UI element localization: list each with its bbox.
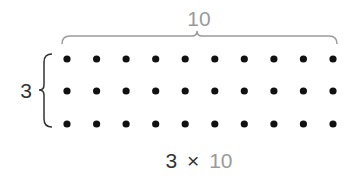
dot bbox=[152, 120, 159, 127]
times-icon: × bbox=[187, 149, 199, 172]
dot bbox=[182, 55, 189, 62]
dot bbox=[63, 120, 70, 127]
dot bbox=[93, 120, 100, 127]
array-diagram: 10 3 3 × 10 bbox=[0, 0, 364, 176]
dot bbox=[241, 87, 248, 94]
dot bbox=[211, 55, 218, 62]
dot bbox=[329, 120, 336, 127]
dot bbox=[300, 120, 307, 127]
dot bbox=[329, 55, 336, 62]
dot-grid bbox=[63, 55, 336, 127]
dot bbox=[211, 120, 218, 127]
rows-brace bbox=[39, 54, 52, 127]
expression-left: 3 bbox=[166, 149, 178, 172]
multiplication-expression: 3 × 10 bbox=[166, 149, 233, 172]
dot bbox=[300, 55, 307, 62]
expression-right: 10 bbox=[209, 149, 232, 172]
rows-label: 3 bbox=[20, 79, 32, 102]
dot bbox=[211, 87, 218, 94]
dot bbox=[93, 87, 100, 94]
dot bbox=[241, 55, 248, 62]
dot bbox=[63, 87, 70, 94]
dot bbox=[123, 120, 130, 127]
dot bbox=[123, 55, 130, 62]
dot bbox=[270, 120, 277, 127]
dot bbox=[300, 87, 307, 94]
dot bbox=[123, 87, 130, 94]
dot bbox=[152, 87, 159, 94]
dot bbox=[182, 120, 189, 127]
dot bbox=[270, 87, 277, 94]
dot bbox=[63, 55, 70, 62]
columns-label: 10 bbox=[187, 7, 210, 30]
columns-brace bbox=[62, 31, 337, 44]
dot bbox=[270, 55, 277, 62]
dot bbox=[152, 55, 159, 62]
dot bbox=[182, 87, 189, 94]
dot bbox=[329, 87, 336, 94]
dot bbox=[93, 55, 100, 62]
dot bbox=[241, 120, 248, 127]
